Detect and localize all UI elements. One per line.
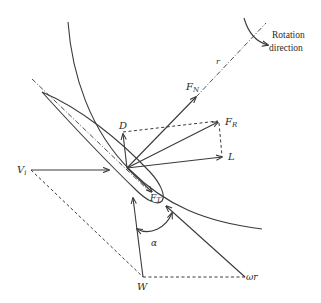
resultant-force-vector [127, 122, 218, 168]
resultant-lift-dashed [219, 123, 222, 156]
vi-w-dashed [31, 170, 143, 277]
inflow-velocity-label: Vi [17, 164, 26, 177]
rotation-arrow-icon [244, 18, 268, 45]
rotational-velocity-label: ωr [246, 272, 258, 282]
relative-velocity-label: W [137, 281, 148, 292]
angle-of-attack-label: α [151, 238, 157, 248]
relative-velocity-vector [133, 198, 143, 277]
radial-line [196, 23, 266, 97]
radius-label: r [216, 57, 221, 66]
rotation-label-line1: Rotation [272, 30, 305, 40]
rotation-label-line2: direction [269, 43, 303, 53]
blade-element-diagram: Rotation direction r FN FR FT D L Vi W ω… [0, 0, 321, 303]
normal-force-label: FN [185, 81, 200, 94]
drag-label: D [118, 120, 127, 131]
airfoil-profile [42, 92, 163, 203]
angle-of-attack-arc [137, 213, 172, 232]
tangential-force-vector [127, 168, 152, 192]
resultant-force-label: FR [224, 116, 238, 129]
lift-label: L [227, 151, 235, 162]
chord-line [32, 79, 150, 192]
normal-force-vector [127, 97, 196, 168]
